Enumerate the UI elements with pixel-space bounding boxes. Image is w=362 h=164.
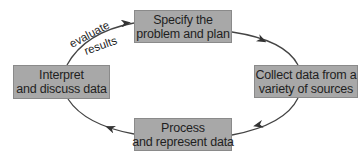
node-process-data: Process and represent data: [134, 118, 232, 151]
arrow-process-to-interpret: [68, 99, 134, 134]
node-interpret-data: Interpret and discuss data: [13, 65, 110, 99]
node-text-line1: Specify the: [153, 13, 213, 27]
cycle-diagram: evaluate results Specify the problem and…: [0, 0, 362, 164]
node-text-line1: Collect data from a: [255, 68, 356, 82]
node-collect-data: Collect data from a variety of sources: [254, 65, 358, 98]
node-text-line2: and discuss data: [16, 82, 107, 96]
arrow-specify-to-collect: [232, 32, 298, 65]
arrow-collect-to-process: [232, 98, 298, 135]
node-specify-problem: Specify the problem and plan: [134, 10, 232, 43]
node-text-line2: and represent data: [132, 135, 233, 149]
node-text-line1: Process: [161, 121, 205, 135]
node-text-line1: Interpret: [39, 68, 84, 82]
node-text-line2: variety of sources: [259, 82, 353, 96]
node-text-line2: problem and plan: [136, 27, 229, 41]
edge-label-evaluate-results: evaluate results: [67, 19, 118, 57]
